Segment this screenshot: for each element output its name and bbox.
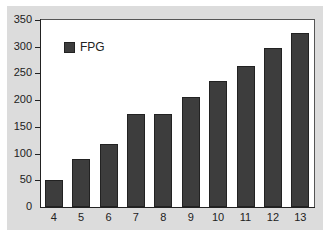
y-tick (35, 47, 40, 48)
bar (264, 48, 282, 207)
x-tick-label: 10 (206, 211, 230, 223)
y-tick-label: 150 (2, 121, 32, 132)
bar (45, 180, 63, 207)
x-axis (40, 207, 315, 208)
legend-label-fpg: FPG (80, 40, 105, 54)
y-tick (35, 100, 40, 101)
x-tick-label: 6 (97, 211, 121, 223)
bar (100, 144, 118, 207)
y-tick-label: 350 (2, 14, 32, 25)
x-tick-label: 8 (151, 211, 175, 223)
y-tick-label: 200 (2, 94, 32, 105)
bar (72, 159, 90, 207)
x-tick-label: 4 (42, 211, 66, 223)
x-tick-label: 13 (288, 211, 312, 223)
y-tick-label: 300 (2, 41, 32, 52)
bar (209, 81, 227, 207)
bar (182, 97, 200, 207)
bar (291, 33, 309, 207)
y-tick (35, 20, 40, 21)
y-tick-label: 250 (2, 67, 32, 78)
bar (237, 66, 255, 207)
y-tick-label: 0 (2, 201, 32, 212)
y-tick (35, 127, 40, 128)
x-tick-label: 12 (261, 211, 285, 223)
x-tick-label: 7 (124, 211, 148, 223)
legend-swatch-fpg (64, 42, 75, 53)
x-tick-label: 9 (179, 211, 203, 223)
legend: FPG (64, 40, 105, 54)
bar (154, 114, 172, 208)
y-tick-label: 100 (2, 148, 32, 159)
y-tick (35, 154, 40, 155)
y-tick-label: 50 (2, 174, 32, 185)
x-tick-label: 5 (69, 211, 93, 223)
bar (127, 114, 145, 208)
y-tick (35, 73, 40, 74)
y-tick (35, 180, 40, 181)
y-axis (40, 19, 41, 208)
x-tick-label: 11 (234, 211, 258, 223)
